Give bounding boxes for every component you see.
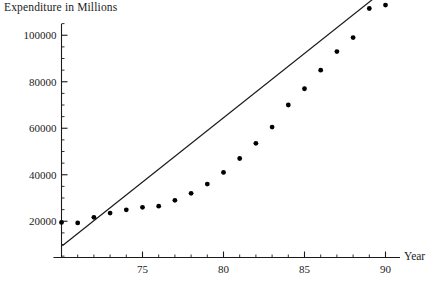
data-point [367, 6, 372, 11]
plot-area [0, 0, 444, 288]
data-point [335, 49, 340, 54]
data-point [189, 191, 194, 196]
data-point [221, 170, 226, 175]
data-point [351, 35, 356, 40]
data-point [108, 211, 113, 216]
data-points-group [59, 0, 404, 225]
axes-group [54, 24, 401, 258]
expenditure-scatter-chart: Expenditure in Millions Year 20000400006… [0, 0, 444, 288]
data-point [254, 141, 259, 146]
trend-line [62, 0, 390, 246]
data-point [59, 220, 64, 225]
data-point [383, 3, 388, 8]
data-point [237, 156, 242, 161]
y-axis-ticks [62, 0, 68, 256]
data-point [286, 103, 291, 108]
data-point [75, 220, 80, 225]
data-point [270, 125, 275, 130]
x-axis-ticks [78, 252, 386, 258]
data-point [156, 204, 161, 209]
data-point [173, 198, 178, 203]
data-point [124, 207, 129, 212]
data-point [205, 182, 210, 187]
trend-line-group [62, 0, 390, 246]
data-point [302, 86, 307, 91]
data-point [140, 205, 145, 210]
data-point [92, 215, 97, 220]
data-point [318, 68, 323, 73]
